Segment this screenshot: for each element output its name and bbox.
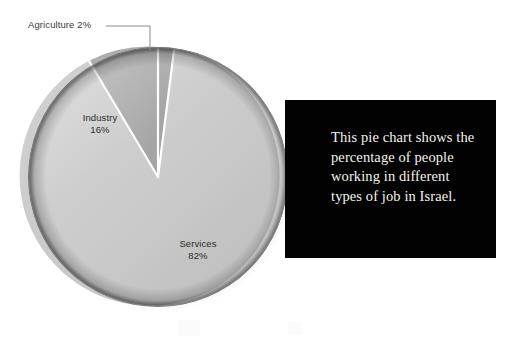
pie-label-industry-name: Industry — [62, 112, 138, 124]
pie-chart-graphic — [0, 0, 330, 346]
pie-label-services-name: Services — [160, 238, 236, 250]
page-root: Agriculture 2% Industry 16% Services 82%… — [0, 0, 512, 346]
caption-panel: This pie chart shows the percentage of p… — [285, 100, 496, 258]
pie-label-industry: Industry 16% — [62, 112, 138, 135]
pie-label-industry-value: 16% — [62, 124, 138, 136]
scan-artifact — [288, 322, 302, 335]
agriculture-leader-line — [106, 26, 150, 50]
pie-chart: Agriculture 2% Industry 16% Services 82% — [0, 0, 330, 346]
pie-label-agriculture: Agriculture 2% — [28, 19, 91, 30]
scan-artifact — [178, 320, 200, 336]
caption-text: This pie chart shows the percentage of p… — [331, 128, 483, 206]
pie-label-services-value: 82% — [160, 250, 236, 262]
pie-label-services: Services 82% — [160, 238, 236, 261]
